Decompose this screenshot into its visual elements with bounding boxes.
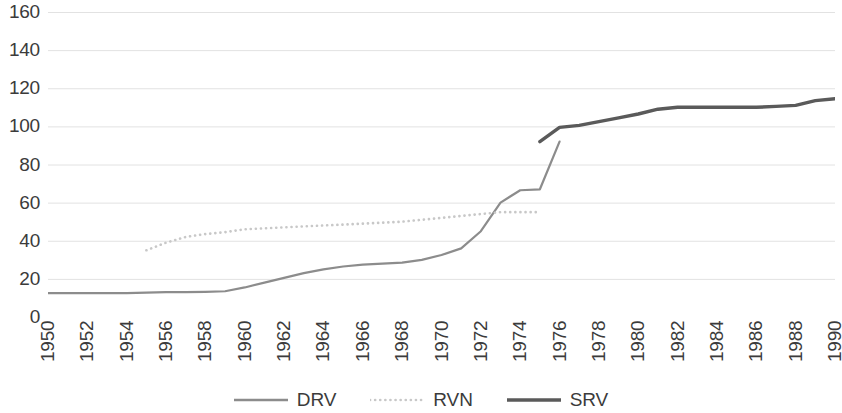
legend-line-icon bbox=[507, 394, 561, 406]
series-line-srv bbox=[540, 99, 835, 142]
y-axis-tick-label: 20 bbox=[0, 269, 40, 288]
legend-label: RVN bbox=[433, 390, 472, 409]
y-axis-tick-label: 120 bbox=[0, 78, 40, 97]
chart-legend: DRVRVNSRV bbox=[0, 386, 842, 413]
y-axis-tick-label: 60 bbox=[0, 193, 40, 212]
legend-line-icon bbox=[234, 394, 288, 406]
x-axis-tick-label: 1976 bbox=[550, 300, 570, 362]
x-axis-tick-label: 1988 bbox=[786, 300, 806, 362]
y-axis-tick-label: 40 bbox=[0, 231, 40, 250]
y-axis-tick-label: 100 bbox=[0, 116, 40, 135]
line-chart: 160140120100806040200 195019521954195619… bbox=[0, 0, 842, 413]
x-axis-tick-label: 1954 bbox=[117, 300, 137, 362]
x-axis-tick-label: 1960 bbox=[235, 300, 255, 362]
plot-svg bbox=[48, 12, 835, 317]
x-axis: 1950195219541956195819601962196419661968… bbox=[48, 321, 835, 383]
x-axis-tick-label: 1972 bbox=[471, 300, 491, 362]
x-axis-tick-label: 1950 bbox=[38, 300, 58, 362]
x-axis-tick-label: 1984 bbox=[707, 300, 727, 362]
legend-label: SRV bbox=[570, 390, 608, 409]
legend-item-drv[interactable]: DRV bbox=[234, 390, 336, 409]
y-axis: 160140120100806040200 bbox=[0, 0, 40, 329]
x-axis-tick-label: 1970 bbox=[432, 300, 452, 362]
x-axis-tick-label: 1966 bbox=[353, 300, 373, 362]
x-axis-tick-label: 1980 bbox=[628, 300, 648, 362]
x-axis-tick-label: 1974 bbox=[510, 300, 530, 362]
plot-area bbox=[48, 12, 835, 317]
gridlines bbox=[48, 13, 835, 318]
legend-label: DRV bbox=[297, 390, 336, 409]
x-axis-tick-label: 1956 bbox=[156, 300, 176, 362]
x-axis-tick-label: 1952 bbox=[77, 300, 97, 362]
x-axis-tick-label: 1968 bbox=[392, 300, 412, 362]
y-axis-tick-label: 80 bbox=[0, 155, 40, 174]
x-axis-tick-label: 1990 bbox=[825, 300, 842, 362]
legend-item-srv[interactable]: SRV bbox=[507, 390, 608, 409]
legend-line-icon bbox=[370, 394, 424, 406]
series-lines bbox=[48, 99, 835, 293]
y-axis-tick-label: 0 bbox=[0, 307, 40, 326]
x-axis-tick-label: 1964 bbox=[313, 300, 333, 362]
x-axis-tick-label: 1978 bbox=[589, 300, 609, 362]
legend-item-rvn[interactable]: RVN bbox=[370, 390, 472, 409]
x-axis-tick-label: 1962 bbox=[274, 300, 294, 362]
x-axis-tick-label: 1958 bbox=[195, 300, 215, 362]
y-axis-tick-label: 140 bbox=[0, 40, 40, 59]
y-axis-tick-label: 160 bbox=[0, 2, 40, 21]
series-line-drv bbox=[48, 142, 560, 294]
x-axis-tick-label: 1982 bbox=[668, 300, 688, 362]
x-axis-tick-label: 1986 bbox=[746, 300, 766, 362]
